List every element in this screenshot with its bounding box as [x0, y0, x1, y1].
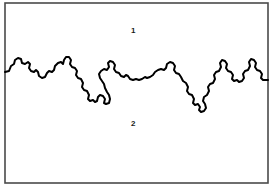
plot-border: [5, 3, 268, 183]
figure-container: 1 2: [0, 0, 275, 195]
fractal-boundary-figure: [0, 0, 275, 195]
region-label-2: 2: [131, 120, 135, 128]
region-label-1: 1: [131, 27, 135, 35]
